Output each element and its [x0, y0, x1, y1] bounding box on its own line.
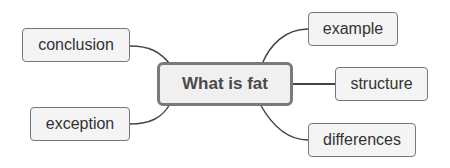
branch-label: example [323, 20, 383, 38]
branch-label: differences [323, 131, 401, 149]
branch-node-differences[interactable]: differences [308, 123, 416, 157]
branch-label: structure [350, 75, 412, 93]
link-differences [260, 104, 308, 140]
central-label: What is fat [182, 74, 268, 94]
branch-node-structure[interactable]: structure [335, 67, 428, 101]
branch-label: exception [46, 115, 115, 133]
branch-node-example[interactable]: example [308, 12, 398, 46]
central-node[interactable]: What is fat [157, 62, 293, 106]
link-example [262, 29, 308, 64]
branch-label: conclusion [38, 36, 114, 54]
branch-node-exception[interactable]: exception [30, 107, 130, 141]
link-exception [130, 104, 170, 124]
branch-node-conclusion[interactable]: conclusion [22, 28, 130, 62]
